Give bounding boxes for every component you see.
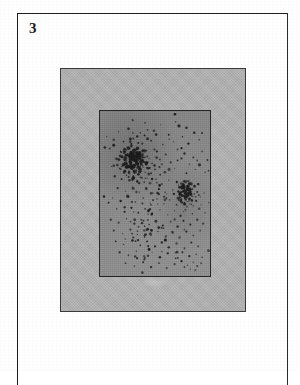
image-panel	[99, 110, 211, 277]
photo-mount	[60, 68, 246, 312]
mount-scan-blotch	[142, 277, 168, 288]
stipple-svg	[100, 111, 210, 276]
stipple-scatter-plot	[100, 111, 210, 276]
plate-number-label: 3	[29, 21, 37, 36]
